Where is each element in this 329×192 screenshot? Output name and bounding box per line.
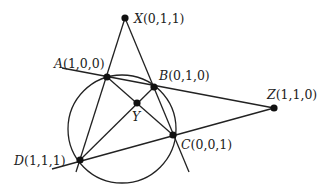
point-y xyxy=(133,99,140,106)
label-d: D(1,1,1) xyxy=(13,153,66,168)
point-c xyxy=(169,131,176,138)
label-b: B(0,1,0) xyxy=(158,68,210,83)
point-a xyxy=(103,73,110,80)
point-x xyxy=(121,14,128,21)
line-x-a-d xyxy=(76,18,125,172)
label-a: A(1,0,0) xyxy=(53,56,105,71)
label-x: X(0,1,1) xyxy=(133,11,184,26)
label-y: Y xyxy=(132,109,142,124)
label-z: Z(1,1,0) xyxy=(266,87,317,102)
point-d xyxy=(76,156,83,163)
line-x-b-c xyxy=(125,18,189,172)
line-d-c-z xyxy=(52,108,274,169)
label-c: C(0,0,1) xyxy=(181,137,232,152)
point-b xyxy=(150,83,157,90)
line-a-c xyxy=(107,77,173,135)
diagram-canvas: X(0,1,1) A(1,0,0) B(0,1,0) Y C(0,0,1) D(… xyxy=(0,0,329,192)
circumcircle xyxy=(68,75,176,183)
point-z xyxy=(270,104,277,111)
